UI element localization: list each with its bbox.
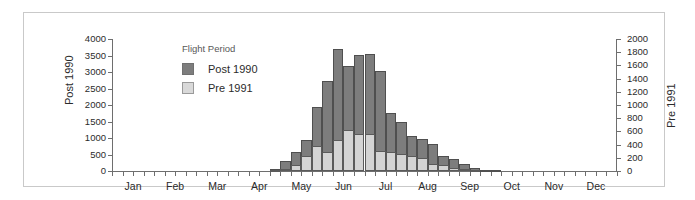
x-axis-tick (554, 172, 555, 176)
x-axis-tick (585, 172, 586, 176)
x-axis-month-label: Jan (125, 180, 142, 192)
y-axis-right-tick-label: 2000 (627, 34, 648, 43)
y-axis-left-tick-label: 2000 (85, 100, 106, 109)
x-axis-month-label: Jun (335, 180, 352, 192)
bar-pre-1991 (343, 130, 354, 171)
y-axis-right-tick-label: 1800 (627, 47, 648, 56)
x-axis-tick (259, 172, 260, 176)
y-axis-left-tick (108, 138, 112, 139)
bar-pre-1991 (365, 134, 376, 171)
x-axis-tick (501, 172, 502, 176)
x-axis-tick (480, 172, 481, 176)
bar-pre-1991 (438, 165, 449, 171)
x-axis-tick (112, 172, 113, 176)
y-axis-left-tick (108, 72, 112, 73)
y-axis-right-tick (617, 79, 621, 80)
legend-title: Flight Period (182, 43, 302, 54)
bar-pre-1991 (417, 158, 428, 171)
x-axis-tick (228, 172, 229, 176)
bar-pre-1991 (470, 170, 481, 172)
legend-swatch-post-1990-icon (182, 63, 194, 75)
y-axis-right-tick-label: 1200 (627, 87, 648, 96)
y-axis-left-tick (108, 105, 112, 106)
x-axis-tick (333, 172, 334, 176)
x-axis-tick (417, 172, 418, 176)
legend-label-post-1990: Post 1990 (208, 63, 258, 75)
y-axis-left-tick-label: 3000 (85, 67, 106, 76)
x-axis-month-label: Feb (166, 180, 184, 192)
x-axis-month-label: Jul (379, 180, 392, 192)
y-axis-left-tick (108, 56, 112, 57)
y-axis-left-title: Post 1990 (63, 55, 75, 105)
x-axis-month-label: Apr (251, 180, 267, 192)
bar-pre-1991 (270, 170, 281, 172)
y-axis-right-tick-label: 0 (627, 166, 632, 175)
x-axis-tick (386, 172, 387, 176)
x-axis-tick (312, 172, 313, 176)
legend-item-pre-1991[interactable]: Pre 1991 (182, 82, 302, 94)
x-axis-tick (238, 172, 239, 176)
x-axis-month-label: Dec (587, 180, 606, 192)
bar-pre-1991 (407, 156, 418, 171)
x-axis-month-label: Mar (208, 180, 226, 192)
x-axis-tick (207, 172, 208, 176)
x-axis-tick (154, 172, 155, 176)
x-axis-tick (438, 172, 439, 176)
x-axis-tick (449, 172, 450, 176)
x-axis-tick (575, 172, 576, 176)
x-axis-tick (375, 172, 376, 176)
legend: Flight Period Post 1990 Pre 1991 (182, 43, 302, 101)
x-axis-tick (249, 172, 250, 176)
bar-post-1990 (491, 170, 502, 172)
x-axis-tick (196, 172, 197, 176)
x-axis-tick (322, 172, 323, 176)
y-axis-left-tick-label: 3500 (85, 51, 106, 60)
bar-pre-1991 (333, 140, 344, 171)
y-axis-left-tick-label: 2500 (85, 84, 106, 93)
y-axis-right-tick-label: 1000 (627, 100, 648, 109)
x-axis-tick (280, 172, 281, 176)
legend-item-post-1990[interactable]: Post 1990 (182, 63, 302, 75)
y-axis-right-tick-label: 200 (627, 153, 643, 162)
y-axis-left-line (112, 39, 113, 172)
x-axis-month-label: Aug (418, 180, 437, 192)
bar-pre-1991 (280, 169, 291, 171)
bar-pre-1991 (459, 169, 470, 171)
bar-pre-1991 (375, 151, 386, 171)
x-axis-tick (365, 172, 366, 176)
y-axis-left-tick (108, 39, 112, 40)
y-axis-right-tick (617, 52, 621, 53)
y-axis-right-tick-label: 1400 (627, 74, 648, 83)
x-axis-tick (491, 172, 492, 176)
x-axis-tick (396, 172, 397, 176)
bar-pre-1991 (312, 146, 323, 171)
bar-pre-1991 (449, 168, 460, 171)
y-axis-left-tick-label: 4000 (85, 34, 106, 43)
x-axis-tick (543, 172, 544, 176)
y-axis-right-tick (617, 39, 621, 40)
y-axis-left-tick-label: 0 (101, 166, 106, 175)
chart-frame: 0500100015002000250030003500400002004006… (23, 12, 665, 187)
y-axis-right-tick (617, 131, 621, 132)
x-axis-month-label: Sep (460, 180, 479, 192)
y-axis-left-tick (108, 122, 112, 123)
x-axis-tick (144, 172, 145, 176)
y-axis-right-tick (617, 158, 621, 159)
y-axis-left-tick (108, 155, 112, 156)
y-axis-right-tick-label: 800 (627, 113, 643, 122)
y-axis-right-tick-label: 600 (627, 126, 643, 135)
x-axis-tick (407, 172, 408, 176)
y-axis-right-title: Pre 1991 (665, 83, 677, 128)
bar-pre-1991 (301, 156, 312, 171)
x-axis-tick (217, 172, 218, 176)
y-axis-left-tick-label: 500 (90, 150, 106, 159)
y-axis-left-tick-label: 1500 (85, 117, 106, 126)
y-axis-left-tick-label: 1000 (85, 133, 106, 142)
x-axis-tick (133, 172, 134, 176)
x-axis-tick (533, 172, 534, 176)
bar-pre-1991 (428, 164, 439, 171)
x-axis-tick (564, 172, 565, 176)
x-axis-tick (301, 172, 302, 176)
bar-pre-1991 (322, 152, 333, 171)
x-axis-tick (291, 172, 292, 176)
